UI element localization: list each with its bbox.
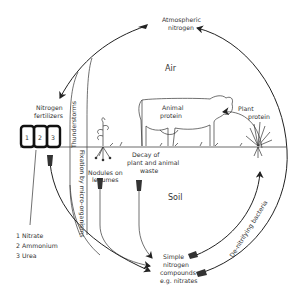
legend-pointer-line xyxy=(30,150,36,225)
label-decay-line3: waste xyxy=(140,167,159,174)
label-plant-protein-line2: protein xyxy=(248,113,270,121)
label-animal-protein-line2: protein xyxy=(160,112,182,120)
arrow-decay-to-compounds xyxy=(136,180,152,258)
label-nodules-line2: legumes xyxy=(92,176,118,184)
fertilizer-bags: 1 2 3 xyxy=(21,126,60,147)
label-nodules-line1: Nodules on xyxy=(88,169,123,176)
label-animal-protein-line1: Animal xyxy=(162,104,184,111)
legend-item-1-label: Nitrate xyxy=(22,232,44,239)
legend-item-1-num: 1 xyxy=(16,232,20,239)
legend-item-2-num: 2 xyxy=(16,242,20,249)
label-air: Air xyxy=(165,64,177,73)
label-plant-protein-line1: Plant xyxy=(238,105,254,112)
legend-item-3-num: 3 xyxy=(16,252,20,259)
label-thunderstorms: Thunderstorms xyxy=(70,101,77,149)
arrow-compounds-to-plant xyxy=(188,172,260,259)
nitrogen-cycle-diagram: 1 2 3 Atmospheric nitrogen Air Soil Nitr… xyxy=(0,0,306,295)
fertilizer-bag-2: 2 xyxy=(38,134,42,141)
label-compounds-line1: Simple xyxy=(163,253,184,261)
label-compounds-line2: nitrogen xyxy=(163,261,189,269)
legume-plant-illustration xyxy=(95,118,112,161)
fertilizer-bag-3: 3 xyxy=(51,134,55,141)
fertilizer-legend: 1 Nitrate 2 Ammonium 3 Urea xyxy=(16,232,58,259)
label-compounds-line3: compounds xyxy=(160,269,196,277)
label-nitrogen-fertilizers-line1: Nitrogen xyxy=(36,104,63,112)
legend-item-2-label: Ammonium xyxy=(22,242,58,249)
label-soil: Soil xyxy=(168,193,182,202)
label-compounds-line4: e.g. nitrates xyxy=(160,277,198,285)
label-decay-line2: plant and animal xyxy=(127,159,180,167)
legend-item-3-label: Urea xyxy=(22,252,37,259)
label-atmospheric-line1: Atmospheric xyxy=(162,16,202,24)
cow-illustration xyxy=(139,96,233,146)
label-fixation: Fixation by micro-organisms xyxy=(78,150,86,238)
label-decay-line1: Decay of xyxy=(132,151,160,159)
label-atmospheric-line2: nitrogen xyxy=(168,24,194,32)
label-nitrogen-fertilizers-line2: fertilizers xyxy=(34,112,63,119)
fertilizer-bag-1: 1 xyxy=(25,134,29,141)
arrow-nodules-to-compounds xyxy=(97,178,150,266)
plant-illustration xyxy=(246,122,272,158)
